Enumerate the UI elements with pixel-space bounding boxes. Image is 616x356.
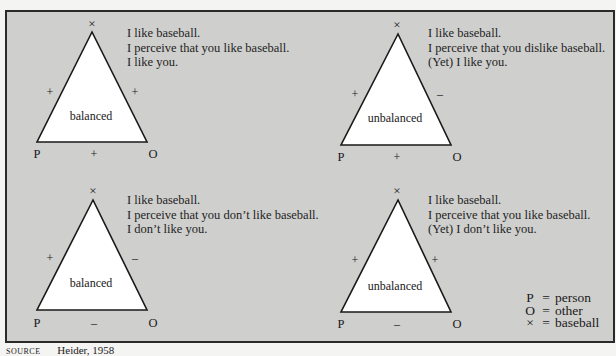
state-label: unbalanced: [368, 111, 423, 125]
statements-bottom-right: I like baseball. I perceive that you lik…: [428, 193, 590, 237]
statement-line: I like baseball.: [428, 193, 590, 208]
state-label: unbalanced: [368, 279, 423, 293]
vertex-person-label: P: [338, 150, 345, 164]
sign-person-other: –: [90, 316, 98, 330]
vertex-object-label: ×: [393, 17, 400, 32]
vertex-object-label: ×: [89, 183, 96, 198]
statement-line: I perceive that you like baseball.: [428, 208, 590, 223]
statement-line: I like baseball.: [127, 193, 319, 208]
statement-line: (Yet) I like you.: [428, 55, 605, 70]
source-footer: SOURCE Heider, 1958: [6, 344, 114, 356]
statements-top-right: I like baseball. I perceive that you dis…: [428, 26, 605, 70]
vertex-other-label: O: [148, 316, 157, 330]
sign-person-object: +: [352, 87, 359, 101]
vertex-person-label: P: [34, 316, 41, 330]
statement-line: (Yet) I don’t like you.: [428, 222, 590, 237]
statement-line: I like you.: [127, 55, 289, 70]
sign-person-object: +: [47, 251, 54, 265]
statements-top-left: I like baseball. I perceive that you lik…: [127, 26, 289, 70]
vertex-other-label: O: [452, 150, 461, 164]
vertex-person-label: P: [34, 147, 41, 161]
sign-person-object: +: [47, 85, 54, 99]
statement-line: I perceive that you like baseball.: [127, 41, 289, 56]
vertex-other-label: O: [148, 147, 157, 161]
sign-person-other: +: [91, 147, 98, 161]
legend-meaning: baseball: [555, 317, 599, 330]
vertex-person-label: P: [338, 317, 345, 331]
source-text: Heider, 1958: [57, 344, 114, 356]
source-label: SOURCE: [6, 347, 41, 356]
state-label: balanced: [70, 276, 113, 290]
statement-line: I perceive that you dislike baseball.: [428, 41, 605, 56]
statement-line: I like baseball.: [428, 26, 605, 41]
sign-other-object: +: [132, 85, 139, 99]
sign-other-object: –: [436, 87, 444, 101]
sign-person-object: +: [352, 253, 359, 267]
legend: P = person O = other × = baseball: [523, 292, 599, 330]
legend-row-baseball: × = baseball: [523, 317, 599, 330]
legend-equals: =: [537, 317, 555, 330]
statement-line: I like baseball.: [127, 26, 289, 41]
legend-symbol: ×: [523, 317, 537, 330]
sign-other-object: –: [131, 251, 139, 265]
sign-other-object: +: [432, 253, 439, 267]
statements-bottom-left: I like baseball. I perceive that you don…: [127, 193, 319, 237]
state-label: balanced: [70, 109, 113, 123]
statement-line: I perceive that you don’t like baseball.: [127, 208, 319, 223]
sign-person-other: –: [393, 317, 401, 331]
vertex-object-label: ×: [88, 16, 95, 31]
statement-line: I don’t like you.: [127, 222, 319, 237]
vertex-other-label: O: [452, 317, 461, 331]
vertex-object-label: ×: [393, 183, 400, 198]
sign-person-other: +: [394, 150, 401, 164]
